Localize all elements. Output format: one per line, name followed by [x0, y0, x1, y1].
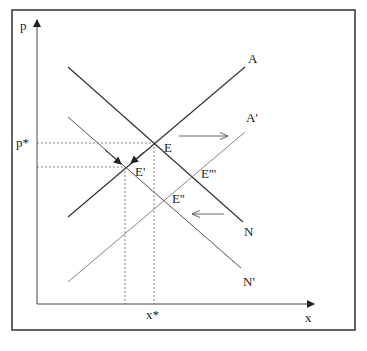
point-E-prime-label: E' [135, 164, 145, 179]
curve-A-prime-label: A' [246, 110, 258, 125]
x-axis-label: x [305, 310, 312, 325]
x-star-label: x* [146, 307, 159, 322]
arrow-along-A [131, 152, 144, 163]
p-star-label: p* [16, 135, 29, 150]
curve-N-prime [68, 117, 241, 268]
diagram-canvas: p x p* x* A N A' N' E E' E'' E''' [0, 0, 367, 351]
arrow-along-N-prime [105, 150, 121, 164]
y-axis-label: p [20, 18, 27, 33]
curve-N-prime-label: N' [243, 274, 255, 289]
curve-A-label: A [248, 51, 258, 66]
curve-N-label: N [244, 224, 254, 239]
point-E-double-prime-label: E'' [172, 191, 185, 206]
point-E-triple-prime-label: E''' [201, 166, 216, 181]
curve-A-prime [68, 132, 245, 282]
point-E-label: E [164, 140, 172, 155]
